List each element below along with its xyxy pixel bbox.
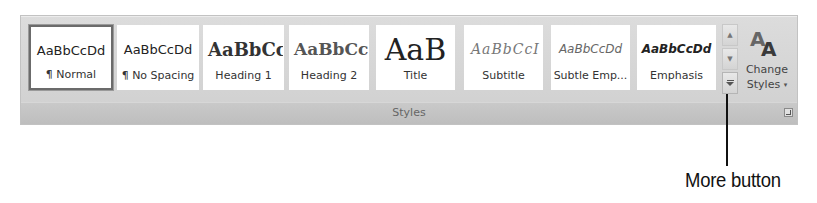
style-label: Emphasis (638, 69, 715, 82)
style-heading-2[interactable]: AaBbCc Heading 2 (289, 25, 369, 90)
style-no-spacing[interactable]: AaBbCcDd ¶ No Spacing (117, 25, 199, 90)
style-sample: AaBbCc (204, 32, 283, 66)
style-subtitle[interactable]: AaBbCcI Subtitle (464, 25, 543, 90)
style-emphasis[interactable]: AaBbCcDd Emphasis (637, 25, 716, 90)
gallery-more-button[interactable] (722, 72, 738, 94)
style-sample: AaB (377, 32, 454, 66)
scroll-up-icon: ▲ (727, 31, 732, 39)
change-styles-button[interactable]: A A Change Styles ▾ (740, 20, 794, 98)
callout-label: More button (685, 168, 781, 192)
style-sample: AaBbCcDd (552, 32, 629, 66)
gallery-scroll-up-button[interactable]: ▲ (722, 24, 738, 46)
change-styles-label-line1: Change (740, 62, 794, 77)
style-subtle-emphasis[interactable]: AaBbCcDd Subtle Emp... (551, 25, 630, 90)
style-normal[interactable]: AaBbCcDd ¶ Normal (29, 25, 113, 90)
change-styles-label-line2: Styles (747, 78, 780, 91)
style-sample: AaBbCc (290, 32, 368, 66)
change-styles-icon: A A (748, 26, 786, 58)
style-label: ¶ No Spacing (118, 69, 198, 82)
style-label: Heading 2 (290, 69, 368, 82)
callout-line (726, 94, 728, 166)
style-sample: AaBbCcI (465, 32, 542, 66)
dropdown-caret-icon: ▾ (784, 81, 788, 89)
style-title[interactable]: AaB Title (376, 25, 455, 90)
style-heading-1[interactable]: AaBbCc Heading 1 (203, 25, 284, 90)
style-label: Subtitle (465, 69, 542, 82)
group-label: Styles (21, 106, 797, 119)
gallery-scroll-down-button[interactable]: ▼ (722, 48, 738, 70)
dialog-launcher-icon[interactable] (784, 108, 793, 117)
svg-text:A: A (761, 37, 777, 58)
quick-styles-gallery: AaBbCcDd ¶ Normal AaBbCcDd ¶ No Spacing … (25, 23, 721, 95)
group-label-bar: Styles (21, 102, 797, 124)
gallery-scroll-controls: ▲ ▼ (722, 24, 738, 96)
more-icon (726, 80, 734, 86)
style-sample: AaBbCcDd (118, 32, 198, 66)
scroll-down-icon: ▼ (727, 55, 732, 63)
style-label: Subtle Emp... (552, 69, 629, 82)
style-label: Title (377, 69, 454, 82)
styles-ribbon-group: AaBbCcDd ¶ Normal AaBbCcDd ¶ No Spacing … (20, 15, 798, 125)
style-sample: AaBbCcDd (638, 32, 715, 66)
style-label: ¶ Normal (31, 68, 111, 81)
style-label: Heading 1 (204, 69, 283, 82)
style-sample: AaBbCcDd (31, 33, 111, 67)
